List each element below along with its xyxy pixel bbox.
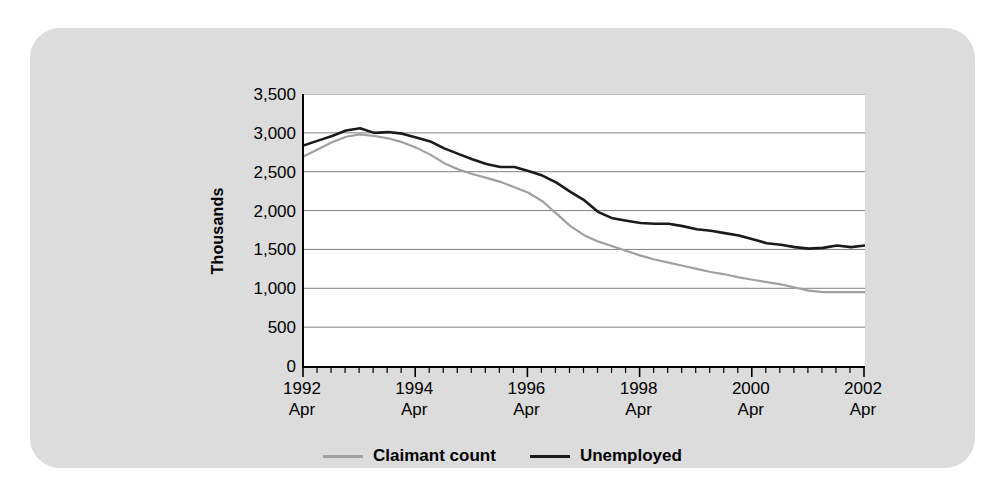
plot-area <box>302 94 865 368</box>
chart-legend: Claimant count Unemployed <box>30 446 975 466</box>
series-line-unemployed <box>304 128 865 248</box>
series-line-claimant-count <box>304 134 865 292</box>
x-tick-year: 2002 <box>844 378 882 399</box>
y-tick-label: 1,000 <box>230 280 296 297</box>
y-axis-tick-labels: 3,5003,0002,5002,0001,5001,0005000 <box>226 94 296 366</box>
x-tick-label: 1998Apr <box>620 378 658 421</box>
x-tick-label: 2002Apr <box>844 378 882 421</box>
y-tick-label: 1,500 <box>230 241 296 258</box>
y-tick-label: 0 <box>230 358 296 375</box>
legend-line-swatch-icon <box>530 455 570 458</box>
x-tick-label: 1994Apr <box>395 378 433 421</box>
legend-line-swatch-icon <box>323 455 363 458</box>
legend-label: Unemployed <box>580 446 682 466</box>
y-tick-label: 2,000 <box>230 202 296 219</box>
gridlines <box>304 94 865 327</box>
x-tick-month: Apr <box>844 399 882 420</box>
x-tick-year: 1992 <box>283 378 321 399</box>
y-tick-label: 500 <box>230 319 296 336</box>
x-tick-label: 1996Apr <box>507 378 545 421</box>
x-tick-month: Apr <box>283 399 321 420</box>
legend-item-claimant-count: Claimant count <box>323 446 496 466</box>
x-tick-month: Apr <box>395 399 433 420</box>
x-tick-month: Apr <box>507 399 545 420</box>
x-tick-year: 2000 <box>732 378 770 399</box>
legend-label: Claimant count <box>373 446 496 466</box>
x-tick-year: 1996 <box>507 378 545 399</box>
y-tick-label: 2,500 <box>230 163 296 180</box>
legend-item-unemployed: Unemployed <box>530 446 682 466</box>
y-axis-title-label: Thousands <box>209 187 227 274</box>
chart-card: Thousands 3,5003,0002,5002,0001,5001,000… <box>30 28 975 468</box>
x-tick-label: 2000Apr <box>732 378 770 421</box>
y-tick-label: 3,500 <box>230 86 296 103</box>
x-tick-year: 1998 <box>620 378 658 399</box>
line-chart-svg <box>304 94 865 366</box>
x-tick-year: 1994 <box>395 378 433 399</box>
x-axis-tick-labels: 1992Apr1994Apr1996Apr1998Apr2000Apr2002A… <box>302 378 863 438</box>
y-tick-label: 3,000 <box>230 124 296 141</box>
x-tick-month: Apr <box>620 399 658 420</box>
x-tick-label: 1992Apr <box>283 378 321 421</box>
x-tick-month: Apr <box>732 399 770 420</box>
